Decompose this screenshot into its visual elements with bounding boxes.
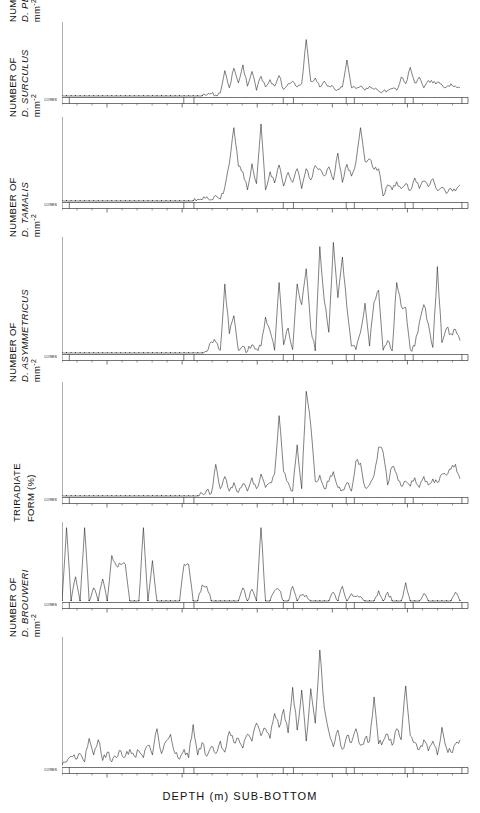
sample-point-marker [197, 352, 198, 353]
y-axis-label-line: D. ASYMMETRICUS [19, 289, 30, 382]
sample-point-marker [107, 495, 108, 496]
sample-point-marker [428, 600, 429, 601]
sample-point-marker [175, 95, 176, 96]
sample-point-marker [220, 600, 221, 601]
y-axis-label-line: mm-2 [30, 614, 42, 637]
sample-point-marker [75, 352, 76, 353]
sample-point-marker [125, 495, 126, 496]
sample-point-marker [89, 200, 90, 201]
chart-panel-4: TRIRADIATEFORM (%)050100CORES [0, 518, 480, 613]
sample-point-marker [107, 352, 108, 353]
sample-point-marker [297, 600, 298, 601]
sample-point-marker [166, 495, 167, 496]
chart-panel-3: NUMBER OFD. ASYMMETRICUSmm-201234CORES [0, 378, 480, 508]
sample-point-marker [107, 95, 108, 96]
sample-point-marker [89, 352, 90, 353]
y-axis-label-line: mm-2 [30, 214, 42, 237]
y-axis-label-line: D. BROUWERI [19, 569, 30, 637]
sample-point-marker [247, 600, 248, 601]
sample-point-marker [120, 352, 121, 353]
sample-point-marker [120, 95, 121, 96]
sample-point-marker [401, 600, 402, 601]
data-series-line [62, 391, 460, 496]
sample-point-marker [152, 352, 153, 353]
cores-label: CORES [44, 203, 57, 207]
sample-point-marker [170, 200, 171, 201]
sample-point-marker [374, 600, 375, 601]
data-series-line [62, 124, 460, 201]
chart-panel-2: NUMBER OFD. TAMALISmm-20051015CORES [0, 233, 480, 365]
sample-point-marker [193, 600, 194, 601]
sample-point-marker [188, 495, 189, 496]
y-axis-label-group-5: NUMBER OFD. BROUWERImm-2 [0, 633, 62, 778]
sample-point-marker [233, 600, 234, 601]
sample-point-marker [107, 200, 108, 201]
y-axis-label-line: D. SURCULUS [19, 49, 30, 117]
sample-point-marker [446, 600, 447, 601]
sample-point-marker [147, 600, 148, 601]
sample-point-marker [175, 495, 176, 496]
sample-point-marker [71, 200, 72, 201]
plot-area-3: 01234 [62, 378, 480, 508]
sample-point-marker [138, 600, 139, 601]
sample-point-marker [175, 200, 176, 201]
cores-label: CORES [44, 98, 57, 102]
sample-point-marker [319, 600, 320, 601]
y-axis-exponent: -2 [30, 359, 37, 366]
y-axis-label-line: mm-2 [30, 94, 42, 117]
sample-point-marker [157, 200, 158, 201]
y-axis-label-line: TRIRADIATE [11, 463, 22, 522]
sample-point-marker [143, 200, 144, 201]
sample-point-marker [451, 600, 452, 601]
sample-point-marker [116, 495, 117, 496]
sample-point-marker [138, 352, 139, 353]
sample-point-marker [129, 600, 130, 601]
sample-point-marker [328, 600, 329, 601]
sample-point-marker [93, 95, 94, 96]
sample-point-marker [143, 95, 144, 96]
sample-point-marker [193, 352, 194, 353]
sample-point-marker [116, 200, 117, 201]
sample-point-marker [224, 600, 225, 601]
sample-point-marker [147, 352, 148, 353]
sample-point-marker [179, 200, 180, 201]
sample-point-marker [80, 352, 81, 353]
sample-point-marker [66, 95, 67, 96]
sample-point-marker [111, 200, 112, 201]
sample-point-marker [84, 95, 85, 96]
sample-point-marker [346, 600, 347, 601]
sample-point-marker [147, 95, 148, 96]
sample-point-marker [111, 495, 112, 496]
sample-point-marker [170, 600, 171, 601]
y-axis-label-line: mm-2 [30, 359, 42, 382]
sample-point-marker [134, 200, 135, 201]
sample-point-marker [80, 95, 81, 96]
sample-point-marker [256, 600, 257, 601]
sample-point-marker [147, 200, 148, 201]
sample-point-marker [184, 200, 185, 201]
sample-point-marker [179, 600, 180, 601]
sample-point-marker [66, 495, 67, 496]
sample-point-marker [71, 95, 72, 96]
sample-point-marker [102, 200, 103, 201]
y-axis-exponent: -2 [30, 94, 37, 101]
sample-point-marker [179, 352, 180, 353]
sample-point-marker [184, 352, 185, 353]
sample-point-marker [166, 200, 167, 201]
sample-point-marker [157, 352, 158, 353]
y-axis-exponent: -2 [30, 614, 37, 621]
sample-point-marker [89, 495, 90, 496]
sample-point-marker [288, 600, 289, 601]
sample-point-marker [324, 600, 325, 601]
sample-point-marker [134, 600, 135, 601]
y-axis-label-line: NUMBER OF [7, 577, 18, 637]
sample-point-marker [125, 352, 126, 353]
sample-point-marker [116, 352, 117, 353]
sample-point-marker [66, 352, 67, 353]
y-axis-exponent: -2 [30, 0, 37, 6]
sample-point-marker [138, 95, 139, 96]
sample-point-marker [102, 95, 103, 96]
sample-point-marker [197, 600, 198, 601]
data-series-line [62, 40, 460, 96]
chart-panel-0: NUMBER OFD. PENTARADIATUSmm-2024CORES [0, 18, 480, 108]
